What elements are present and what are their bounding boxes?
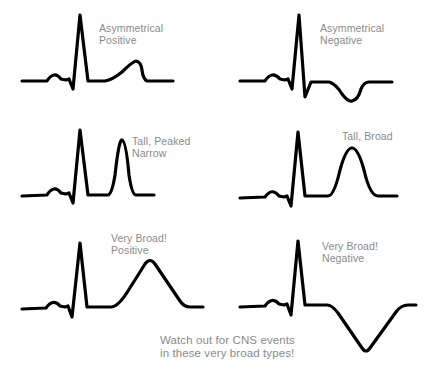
label-asymmetrical-positive: Asymmetrical Positive: [99, 22, 163, 46]
note-line2: in these very broad types!: [160, 347, 295, 360]
label-line1: Very Broad!: [111, 232, 167, 244]
label-asymmetrical-negative: Asymmetrical Negative: [320, 22, 384, 46]
cns-warning-note: Watch out for CNS events in these very b…: [160, 334, 295, 360]
label-line2: Negative: [320, 34, 384, 46]
label-very-broad-negative: Very Broad! Negative: [322, 240, 378, 264]
label-very-broad-positive: Very Broad! Positive: [111, 232, 167, 256]
ecg-diagram: [0, 0, 431, 377]
note-line1: Watch out for CNS events: [160, 334, 295, 347]
label-line2: Positive: [111, 244, 167, 256]
label-tall-broad: Tall, Broad: [342, 130, 393, 142]
label-line2: Negative: [322, 252, 378, 264]
label-tall-peaked-narrow: Tall, Peaked Narrow: [132, 135, 190, 159]
label-line1: Asymmetrical: [99, 22, 163, 34]
label-line2: Narrow: [132, 147, 190, 159]
label-line1: Tall, Peaked: [132, 135, 190, 147]
label-line2: Positive: [99, 34, 163, 46]
label-line1: Asymmetrical: [320, 22, 384, 34]
label-line1: Very Broad!: [322, 240, 378, 252]
ecg-trace-tall-broad: [240, 132, 397, 206]
label-line1: Tall, Broad: [342, 130, 393, 142]
